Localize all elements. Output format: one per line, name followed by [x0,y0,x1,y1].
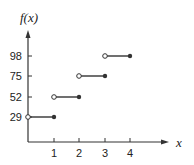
x-tick-label: 2 [76,147,82,159]
open-circle-icon [52,95,57,100]
closed-dot-icon [77,95,81,99]
open-circle-icon [77,74,82,79]
open-circle-icon [26,115,31,120]
x-tick-label: 3 [102,147,108,159]
closed-endpoints [52,54,132,119]
y-tick-label: 52 [10,91,22,103]
closed-dot-icon [128,54,132,58]
step-function-chart: f(x) x 1 2 3 4 29 52 75 98 [0,0,194,165]
x-tick-label: 1 [51,147,57,159]
step-segments [30,56,130,117]
x-tick-label: 4 [127,147,133,159]
x-axis-label: x [175,135,182,150]
y-tick-label: 75 [10,70,22,82]
y-axis-arrow-icon [26,30,31,38]
x-axis-arrow-icon [161,140,169,145]
closed-dot-icon [52,115,56,119]
open-circle-icon [103,54,108,59]
y-tick-label: 98 [10,50,22,62]
open-endpoints [26,54,108,120]
y-tick-label: 29 [10,111,22,123]
closed-dot-icon [103,74,107,78]
y-axis-label: f(x) [20,10,38,25]
